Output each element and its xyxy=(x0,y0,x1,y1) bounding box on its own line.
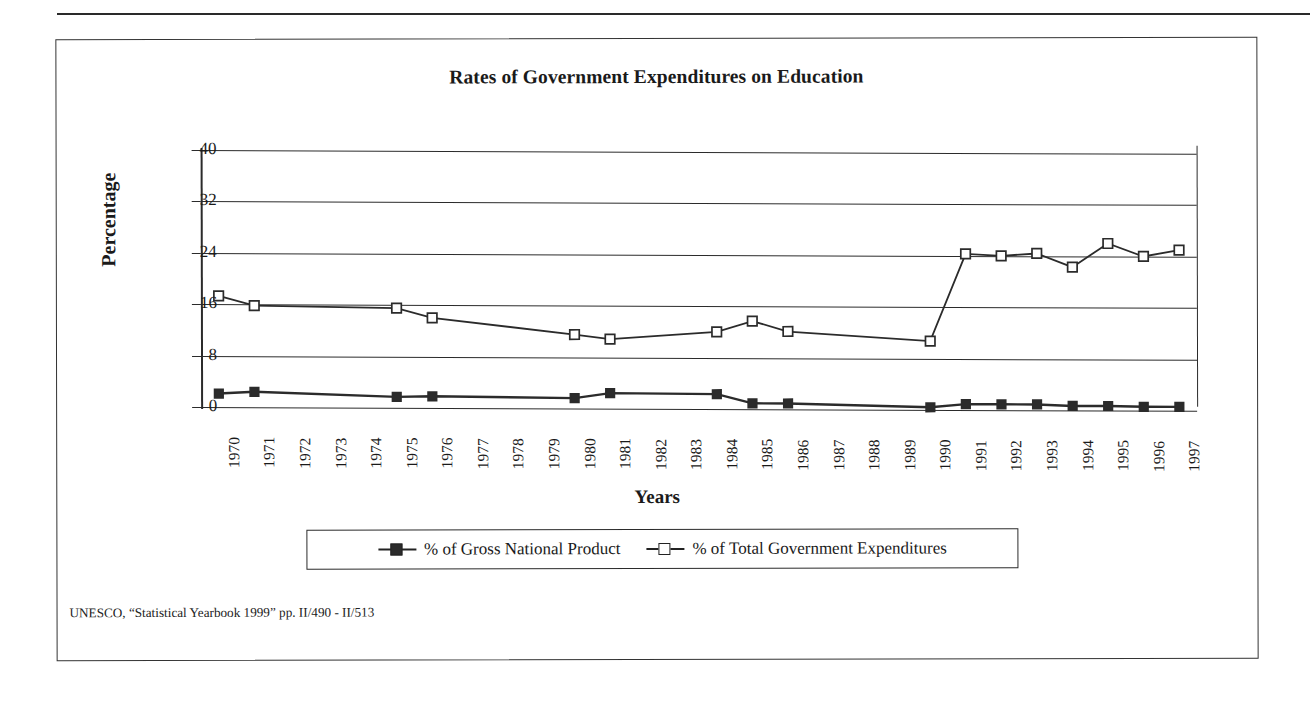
open-square-marker-icon xyxy=(249,301,259,311)
x-tick-label: 1992 xyxy=(1007,415,1025,471)
y-tick-label: 8 xyxy=(177,345,217,365)
x-tick-label: 1972 xyxy=(296,412,314,468)
open-square-marker-icon xyxy=(646,542,684,556)
x-tick-label: 1991 xyxy=(972,415,990,471)
open-square-marker-icon xyxy=(1174,245,1184,255)
x-tick-label: 1982 xyxy=(652,414,670,470)
y-tick-label: 40 xyxy=(177,139,217,159)
x-tick-label: 1997 xyxy=(1185,416,1203,472)
chart-legend: % of Gross National Product % of Total G… xyxy=(306,528,1018,569)
chart-frame: Rates of Government Expenditures on Educ… xyxy=(55,37,1258,662)
x-tick-label: 1973 xyxy=(332,412,350,468)
x-tick-label: 1978 xyxy=(509,413,527,469)
x-tick-label: 1983 xyxy=(687,414,705,470)
x-tick-labels: 1970197119721973197419751976197719781979… xyxy=(201,410,1197,482)
open-square-marker-icon xyxy=(570,330,580,340)
open-square-marker-icon xyxy=(1139,252,1149,262)
x-tick-label: 1995 xyxy=(1114,415,1132,471)
filled-square-marker-icon xyxy=(570,394,579,403)
plot-area xyxy=(201,148,1198,407)
x-tick-label: 1980 xyxy=(581,413,599,469)
filled-square-marker-icon xyxy=(392,393,401,402)
legend-label-gnp: % of Gross National Product xyxy=(424,539,620,559)
open-square-marker-icon xyxy=(712,327,722,337)
legend-label-total-gov-exp: % of Total Government Expenditures xyxy=(692,538,946,559)
open-square-marker-icon xyxy=(996,251,1006,261)
x-tick-label: 1981 xyxy=(616,414,634,470)
filled-square-marker-icon xyxy=(1104,402,1113,411)
open-square-marker-icon xyxy=(392,303,402,313)
open-square-marker-icon xyxy=(605,334,615,344)
legend-item-gnp: % of Gross National Product xyxy=(378,539,620,560)
open-square-marker-icon xyxy=(1032,249,1042,259)
open-square-marker-icon xyxy=(1068,262,1078,272)
x-tick-label: 1974 xyxy=(367,413,385,469)
y-tick-labels: 0816243240 xyxy=(56,38,1256,41)
filled-square-marker-icon xyxy=(378,543,416,557)
source-citation: UNESCO, “Statistical Yearbook 1999” pp. … xyxy=(70,605,375,622)
filled-square-marker-icon xyxy=(606,389,615,398)
series-layer xyxy=(201,148,1198,407)
open-square-marker-icon xyxy=(427,313,437,323)
open-square-marker-icon xyxy=(1103,239,1113,249)
chart-title: Rates of Government Expenditures on Educ… xyxy=(56,65,1256,90)
open-square-marker-icon xyxy=(961,249,971,259)
filled-square-marker-icon xyxy=(962,400,971,409)
chart-page: Rates of Government Expenditures on Educ… xyxy=(0,0,1312,709)
x-tick-label: 1986 xyxy=(794,414,812,470)
y-axis-title: Percentage xyxy=(97,130,120,310)
open-square-marker-icon xyxy=(748,316,758,326)
filled-square-marker-icon xyxy=(997,400,1006,409)
plot-canvas xyxy=(201,148,1198,407)
x-tick-label: 1971 xyxy=(260,412,278,468)
x-tick-label: 1996 xyxy=(1150,416,1168,472)
y-tick-label: 32 xyxy=(177,190,217,210)
open-square-marker-icon xyxy=(783,327,793,337)
x-tick-label: 1993 xyxy=(1043,415,1061,471)
filled-square-marker-icon xyxy=(250,388,259,397)
open-square-marker-icon xyxy=(925,336,935,346)
x-axis-title: Years xyxy=(57,485,1257,510)
filled-square-marker-icon xyxy=(1033,400,1042,409)
x-tick-label: 1979 xyxy=(545,413,563,469)
x-tick-label: 1976 xyxy=(438,413,456,469)
x-tick-label: 1984 xyxy=(723,414,741,470)
y-tick-label: 24 xyxy=(177,242,217,262)
x-tick-label: 1989 xyxy=(901,415,919,471)
y-tick-label: 16 xyxy=(177,293,217,313)
x-tick-label: 1977 xyxy=(474,413,492,469)
filled-square-marker-icon xyxy=(1068,402,1077,411)
filled-square-marker-icon xyxy=(748,399,757,408)
x-tick-label: 1970 xyxy=(225,412,243,468)
x-tick-label: 1990 xyxy=(936,415,954,471)
x-tick-label: 1988 xyxy=(865,414,883,470)
x-tick-label: 1985 xyxy=(758,414,776,470)
legend-item-total-gov-exp: % of Total Government Expenditures xyxy=(646,538,946,559)
x-tick-label: 1975 xyxy=(403,413,421,469)
page-top-rule xyxy=(57,13,1310,15)
filled-square-marker-icon xyxy=(428,392,437,401)
filled-square-marker-icon xyxy=(784,399,793,408)
x-tick-label: 1994 xyxy=(1079,415,1097,471)
x-tick-label: 1987 xyxy=(830,414,848,470)
filled-square-marker-icon xyxy=(713,390,722,399)
